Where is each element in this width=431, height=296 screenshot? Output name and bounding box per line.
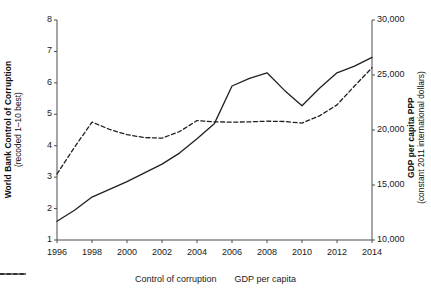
- series-line-gdp-per-capita: [57, 57, 372, 221]
- right-ytick-label: 20,000: [377, 124, 423, 134]
- xtick-label: 2008: [247, 247, 287, 257]
- data-series-layer: [57, 57, 372, 221]
- xtick-label: 2010: [282, 247, 322, 257]
- xtick-label: 1996: [37, 247, 77, 257]
- xtick-label: 1998: [72, 247, 112, 257]
- left-ytick-label: 7: [28, 45, 52, 55]
- left-ytick-label: 3: [28, 171, 52, 181]
- legend-item-control-of-corruption: Control of corruption: [135, 274, 217, 284]
- axis-ticks: [54, 20, 375, 243]
- xtick-label: 2002: [142, 247, 182, 257]
- legend-item-gdp-per-capita: GDP per capita: [235, 274, 296, 284]
- xtick-label: 2000: [107, 247, 147, 257]
- axis-lines: [57, 20, 372, 240]
- legend-label: GDP per capita: [235, 274, 296, 284]
- xtick-label: 2006: [212, 247, 252, 257]
- left-ytick-label: 5: [28, 108, 52, 118]
- xtick-label: 2012: [317, 247, 357, 257]
- left-ytick-label: 6: [28, 77, 52, 87]
- xtick-label: 2014: [352, 247, 392, 257]
- chart-figure: World Bank Control of Corruption (recode…: [0, 0, 431, 296]
- xtick-label: 2004: [177, 247, 217, 257]
- left-ytick-label: 1: [28, 234, 52, 244]
- left-ytick-label: 2: [28, 203, 52, 213]
- right-ytick-label: 30,000: [377, 14, 423, 24]
- legend-label: Control of corruption: [135, 274, 217, 284]
- solid-line-icon: [0, 270, 26, 278]
- right-ytick-label: 15,000: [377, 179, 423, 189]
- left-ytick-label: 8: [28, 14, 52, 24]
- right-ytick-label: 10,000: [377, 234, 423, 244]
- chart-legend: Control of corruptionGDP per capita: [0, 270, 431, 288]
- right-ytick-label: 25,000: [377, 69, 423, 79]
- left-ytick-label: 4: [28, 140, 52, 150]
